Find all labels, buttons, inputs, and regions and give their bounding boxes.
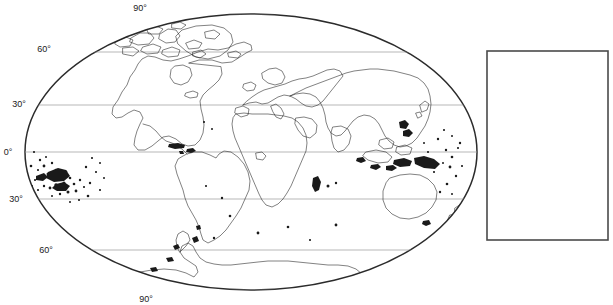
map-canvas: 90° 60° 30° 0° 30° 60° 90° bbox=[0, 0, 613, 305]
world-map-figure: 90° 60° 30° 0° 30° 60° 90° bbox=[0, 0, 613, 305]
latitude-label-60s: 60° bbox=[39, 245, 53, 255]
latitude-label-30n: 30° bbox=[12, 99, 26, 109]
latitude-label-90n: 90° bbox=[133, 3, 147, 13]
latitude-label-30s: 30° bbox=[9, 194, 23, 204]
latitude-label-0: 0° bbox=[4, 147, 13, 157]
latitude-label-90s: 90° bbox=[139, 294, 153, 304]
latitude-label-60n: 60° bbox=[37, 44, 51, 54]
side-panel-box[interactable] bbox=[487, 51, 608, 240]
